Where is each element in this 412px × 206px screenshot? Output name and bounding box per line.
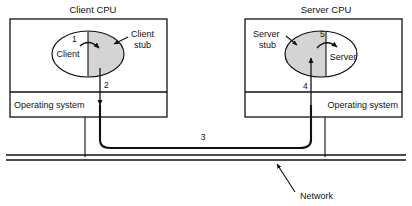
rpc-diagram: Client CPU Operating system Client 1 Cli… xyxy=(0,0,412,206)
client-os-label: Operating system xyxy=(14,100,85,110)
client-inner-label: Client xyxy=(56,49,80,59)
server-inner-label: Server xyxy=(330,52,357,62)
network-group: 3 Network xyxy=(6,105,406,201)
client-stub-label-line1: Client xyxy=(131,29,155,39)
server-stub-label-line2: stub xyxy=(259,40,276,50)
server-step5-label: 5 xyxy=(320,29,325,39)
network-callout-arrow xyxy=(277,164,295,192)
client-step2-label: 2 xyxy=(104,80,109,90)
server-cpu-title: Server CPU xyxy=(301,4,352,15)
diagram-canvas: Client CPU Operating system Client 1 Cli… xyxy=(0,0,412,206)
server-stub-label-line1: Server xyxy=(253,29,280,39)
server-cpu-group: Server CPU Operating system Server 5 Ser… xyxy=(245,4,402,117)
server-step4-label: 4 xyxy=(303,81,308,91)
server-os-label: Operating system xyxy=(327,100,398,110)
network-label: Network xyxy=(300,191,334,201)
client-stub-label-line2: stub xyxy=(134,40,151,50)
client-step1-label: 1 xyxy=(72,34,77,44)
network-step3-label: 3 xyxy=(201,132,206,142)
client-cpu-group: Client CPU Operating system Client 1 Cli… xyxy=(10,4,167,117)
client-cpu-title: Client CPU xyxy=(70,4,117,15)
